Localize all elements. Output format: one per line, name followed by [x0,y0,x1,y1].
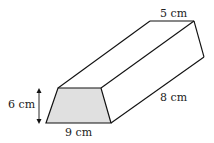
edge-top-right [101,21,194,88]
label-height: 6 cm [8,98,36,111]
edge-back-right [194,21,204,57]
label-length: 8 cm [160,91,188,104]
label-top-width: 5 cm [160,7,188,20]
label-bottom-width: 9 cm [65,126,93,139]
front-trapezoid-face [46,88,111,123]
edge-bottom-right [111,57,204,123]
prism-diagram: 5 cm 6 cm 8 cm 9 cm [0,0,214,143]
arrow-head-down-icon [37,119,42,124]
edge-top-left [58,21,150,88]
arrow-head-up-icon [37,88,42,93]
